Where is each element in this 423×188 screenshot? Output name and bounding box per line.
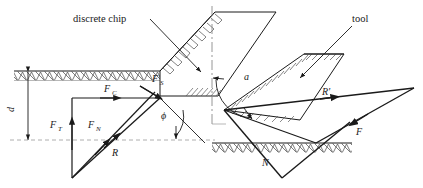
thrust-force-label: F xyxy=(49,119,57,130)
chip-shear-face xyxy=(186,88,221,96)
cutting-force-subscript: C xyxy=(112,89,117,97)
force-polygon-left xyxy=(72,86,205,178)
discrete-chip xyxy=(160,12,276,96)
normal-force-label: F xyxy=(87,119,95,130)
orthogonal-cutting-force-diagram: discrete chip to xyxy=(0,0,423,188)
rake-angle-label: a xyxy=(244,71,249,82)
resultant-prime-label: R' xyxy=(321,86,331,97)
tool-leader xyxy=(300,26,352,78)
chip-hatched-edge xyxy=(160,12,222,74)
normal-tool-force-label: N xyxy=(261,157,270,168)
shear-force-label: F xyxy=(151,73,159,84)
discrete-chip-label: discrete chip xyxy=(73,13,126,24)
depth-label: d xyxy=(5,106,16,112)
shear-angle-indicator xyxy=(176,110,184,139)
friction-force-label: F xyxy=(355,126,363,137)
thrust-force-subscript: T xyxy=(58,125,63,133)
shear-force-subscript: S xyxy=(160,79,164,87)
workpiece-ground-left xyxy=(14,71,160,81)
normal-force-subscript: N xyxy=(95,125,101,133)
force-triangle-right xyxy=(224,88,414,178)
cutting-force-label: F xyxy=(103,83,111,94)
resultant-label: R xyxy=(111,147,118,158)
shear-angle-label: ϕ xyxy=(161,110,166,121)
force-labels-right: R' F N xyxy=(261,86,363,168)
tool-label: tool xyxy=(352,13,368,24)
